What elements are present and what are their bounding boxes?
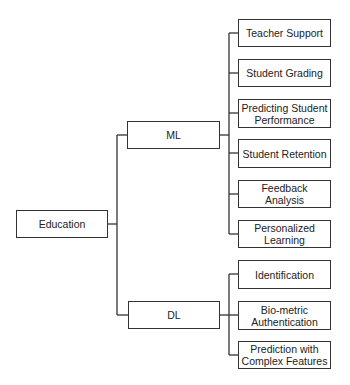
education-ml-dl-tree-diagram: Education ML DL Teacher Support Student … (0, 0, 350, 385)
node-predicting-student-performance: Predicting Student Performance (238, 99, 331, 128)
node-prediction-with-complex-features: Prediction with Complex Features (238, 341, 331, 369)
node-student-retention: Student Retention (238, 139, 331, 168)
node-identification: Identification (238, 260, 331, 289)
node-feedback-analysis: Feedback Analysis (238, 180, 331, 208)
node-student-grading: Student Grading (238, 59, 331, 87)
node-bio-metric-authentication: Bio-metric Authentication (238, 301, 331, 330)
node-teacher-support: Teacher Support (238, 19, 331, 47)
node-ml: ML (127, 121, 220, 149)
node-personalized-learning: Personalized Learning (238, 220, 331, 248)
node-education: Education (16, 210, 108, 238)
node-dl: DL (128, 301, 220, 329)
